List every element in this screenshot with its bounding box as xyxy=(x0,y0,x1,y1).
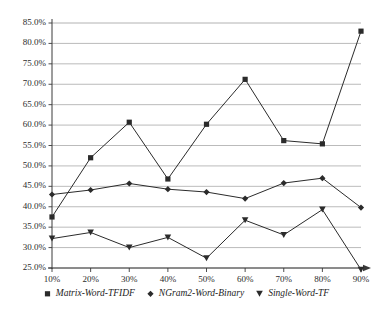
square-marker-icon xyxy=(127,120,132,125)
x-axis-tick-label: 90% xyxy=(341,274,372,284)
series-ngram2-word-binary xyxy=(49,175,364,211)
chart-legend: Matrix-Word-TFIDFNGram2-Word-BinarySingl… xyxy=(0,288,372,298)
legend-item[interactable]: Single-Word-TF xyxy=(255,288,329,298)
triangle-marker-icon xyxy=(280,232,287,238)
y-axis-tick-label: 35.0% xyxy=(23,221,46,231)
y-axis-tick-label: 80.0% xyxy=(23,37,46,47)
x-axis-tick-label: 20% xyxy=(71,274,111,284)
y-axis-tick-label: 75.0% xyxy=(23,58,46,68)
y-axis-tick-label: 55.0% xyxy=(23,140,46,150)
legend-item-label: Matrix-Word-TFIDF xyxy=(56,288,135,298)
triangle-marker-icon xyxy=(256,290,263,296)
square-marker-icon xyxy=(43,289,52,298)
y-axis-tick-label: 25.0% xyxy=(23,262,46,272)
y-axis-tick-label: 70.0% xyxy=(23,78,46,88)
square-marker-icon xyxy=(320,141,325,146)
triangle-marker-icon xyxy=(255,289,264,298)
square-marker-icon xyxy=(88,155,93,160)
triangle-marker-icon xyxy=(203,255,210,261)
gridlines xyxy=(52,23,361,268)
x-axis-tick-label: 40% xyxy=(148,274,188,284)
y-axis-tick-label: 65.0% xyxy=(23,99,46,109)
x-axis-arrow-icon xyxy=(363,265,371,271)
plot-area xyxy=(0,0,372,316)
y-axis-tick-label: 60.0% xyxy=(23,119,46,129)
diamond-marker-icon xyxy=(165,186,171,192)
x-axis-tick-label: 50% xyxy=(187,274,227,284)
legend-item-label: Single-Word-TF xyxy=(268,288,329,298)
diamond-marker-icon xyxy=(203,189,209,195)
x-axis-tick-label: 30% xyxy=(109,274,149,284)
legend-item[interactable]: Matrix-Word-TFIDF xyxy=(43,288,135,298)
x-axis-tick-label: 60% xyxy=(225,274,265,284)
triangle-marker-icon xyxy=(165,234,172,240)
diamond-marker-icon xyxy=(281,180,287,186)
square-marker-icon xyxy=(204,122,209,127)
y-axis-tick-label: 50.0% xyxy=(23,160,46,170)
square-marker-icon xyxy=(165,176,170,181)
legend-item[interactable]: NGram2-Word-Binary xyxy=(146,288,244,298)
y-axis-tick-label: 40.0% xyxy=(23,201,46,211)
diamond-marker-icon xyxy=(146,289,155,298)
line-chart: 85.0%80.0%75.0%70.0%65.0%60.0%55.0%50.0%… xyxy=(0,0,372,316)
x-axis-tick-label: 10% xyxy=(32,274,72,284)
diamond-marker-icon xyxy=(126,180,132,186)
x-axis-tick-label: 70% xyxy=(264,274,304,284)
square-marker-icon xyxy=(281,138,286,143)
series-single-word-tf xyxy=(49,207,365,273)
y-axis-tick-label: 45.0% xyxy=(23,180,46,190)
y-axis-tick-label: 85.0% xyxy=(23,17,46,27)
y-axis-tick-label: 30.0% xyxy=(23,242,46,252)
square-marker-icon xyxy=(243,77,248,82)
square-marker-icon xyxy=(358,29,363,34)
diamond-marker-icon xyxy=(88,187,94,193)
diamond-marker-icon xyxy=(147,290,153,296)
legend-item-label: NGram2-Word-Binary xyxy=(159,288,244,298)
diamond-marker-icon xyxy=(242,195,248,201)
diamond-marker-icon xyxy=(49,191,55,197)
x-axis-tick-label: 80% xyxy=(302,274,342,284)
square-marker-icon xyxy=(45,291,50,296)
square-marker-icon xyxy=(49,214,54,219)
